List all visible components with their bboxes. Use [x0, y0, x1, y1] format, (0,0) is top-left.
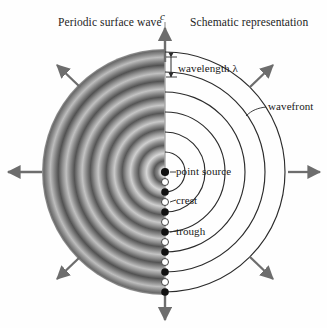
- dot-point-source: [161, 168, 169, 176]
- label-trough: trough: [176, 225, 205, 237]
- propagation-arrow-ne: [250, 65, 273, 87]
- dot-trough-2: [162, 199, 169, 206]
- dot-trough-5: [162, 259, 169, 266]
- dot-trough-1: [162, 179, 169, 186]
- title-schematic-representation: Schematic representation: [190, 16, 308, 28]
- wavelength-bracket: [166, 57, 177, 77]
- dot-crest-1: [161, 188, 169, 196]
- diagram-canvas: [0, 0, 327, 328]
- velocity-vector-label: c: [160, 10, 165, 22]
- dot-crest-5: [161, 268, 169, 276]
- dot-trough-3: [162, 219, 169, 226]
- dot-crest-3: [161, 228, 169, 236]
- label-crest: crest: [176, 194, 197, 206]
- dot-crest-4: [161, 248, 169, 256]
- dot-trough-6: [162, 279, 169, 286]
- propagation-arrow-se: [250, 257, 273, 279]
- label-point-source: point source: [176, 165, 231, 177]
- dot-trough-4: [162, 239, 169, 246]
- label-wavelength: wavelength λ: [178, 62, 238, 74]
- dot-crest-6: [161, 288, 169, 296]
- wave-diagram-figure: Periodic surface wave Schematic represen…: [0, 0, 327, 328]
- title-periodic-surface-wave: Periodic surface wave: [58, 16, 162, 28]
- propagation-arrow-sw: [57, 257, 80, 279]
- label-wavefront: wavefront: [268, 100, 314, 112]
- dot-crest-2: [161, 208, 169, 216]
- leader-wavefront: [246, 107, 266, 116]
- propagation-arrow-nw: [57, 65, 80, 87]
